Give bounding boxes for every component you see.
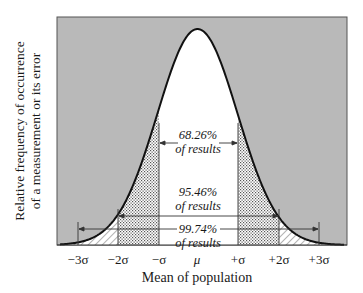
y-axis-label-line1: Relative frequency of occurrence bbox=[12, 41, 28, 221]
y-axis-label-line2: of a measurement or its error bbox=[28, 41, 44, 221]
annotation-68-percent: 68.26% of results bbox=[175, 128, 221, 156]
x-tick-minus-3sigma: −3σ bbox=[68, 252, 89, 268]
x-tick-minus-sigma: −σ bbox=[152, 252, 166, 268]
annotation-95-text: of results bbox=[175, 199, 221, 213]
annotation-95-percent: 95.46% of results bbox=[175, 185, 221, 213]
annotation-99-value: 99.74% bbox=[175, 222, 221, 236]
annotation-95-value: 95.46% bbox=[175, 185, 221, 199]
x-tick-plus-3sigma: +3σ bbox=[309, 252, 330, 268]
y-axis-label: Relative frequency of occurrence of a me… bbox=[4, 17, 52, 245]
x-tick-minus-2sigma: −2σ bbox=[108, 252, 129, 268]
annotation-68-text: of results bbox=[175, 142, 221, 156]
x-tick-plus-sigma: +σ bbox=[231, 252, 245, 268]
annotation-68-value: 68.26% bbox=[175, 128, 221, 142]
x-axis-label: Mean of population bbox=[142, 270, 252, 286]
x-tick-mu: μ bbox=[194, 252, 201, 268]
annotation-99-percent: 99.74% of results bbox=[175, 222, 221, 250]
x-tick-plus-2sigma: +2σ bbox=[269, 252, 290, 268]
annotation-99-text: of results bbox=[175, 236, 221, 250]
